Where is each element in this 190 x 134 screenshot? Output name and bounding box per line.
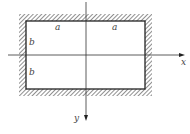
plate-diagram: x y a a b b — [0, 0, 190, 134]
dimension-b-lower: b — [29, 67, 35, 77]
x-axis: x — [8, 53, 186, 67]
dimension-a-left: a — [55, 22, 60, 32]
dimension-a-right: a — [112, 22, 117, 32]
y-axis-arrow-icon — [84, 115, 88, 121]
dimension-b-upper: b — [29, 37, 35, 47]
x-axis-label: x — [181, 57, 186, 67]
y-axis-label: y — [73, 113, 80, 123]
